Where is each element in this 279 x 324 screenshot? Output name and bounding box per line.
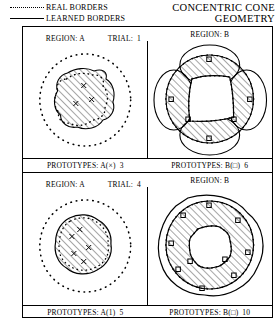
trial-4-header: REGION: A TRIAL:4 REGION: B <box>23 173 272 187</box>
trial-4-prototypes-b: PROTOTYPES: B(□)10 <box>148 308 273 317</box>
learned-border-blob-a4 <box>55 215 111 274</box>
figure-title: CONCENTRIC CONE GEOMETRY <box>145 2 275 24</box>
trial-4-panes <box>23 187 272 305</box>
legend-label-real-borders: REAL BORDERS <box>46 3 108 12</box>
trial-1-prototypes-b-label: PROTOTYPES: B(□) <box>171 161 240 170</box>
trial-1-prototypes-b: PROTOTYPES: B(□)6 <box>148 161 273 170</box>
plot-trial4-region-a <box>23 187 147 305</box>
trial-1-prototypes-a: PROTOTYPES: A(×)3 <box>23 161 148 170</box>
panel-trial4-region-a <box>23 187 148 305</box>
trial-1-prototypes-a-label: PROTOTYPES: A(×) <box>47 161 116 170</box>
plot-trial1-region-b <box>148 41 273 159</box>
legend-item-learned-borders: LEARNED BORDERS <box>8 13 158 24</box>
trial-1-prototypes-b-count: 6 <box>240 161 248 170</box>
concentric-cone-geometry-figure: REAL BORDERS LEARNED BORDERS CONCENTRIC … <box>0 0 279 324</box>
trial-4-prototypes-b-count: 10 <box>238 308 250 317</box>
plot-trial1-region-a <box>23 41 147 159</box>
trial-4-region-b-label: REGION: B <box>148 176 273 185</box>
panel-trial4-region-b <box>148 187 273 305</box>
panel-trial1-region-a <box>23 41 148 159</box>
trial-1-region-b-label: REGION: B <box>148 30 273 39</box>
legend-item-real-borders: REAL BORDERS <box>8 2 158 13</box>
learned-border-blob-a1 <box>54 69 114 129</box>
trial-4-prototypes-b-label: PROTOTYPES: B(□) <box>169 308 238 317</box>
figure-title-line2: GEOMETRY <box>145 13 275 24</box>
dotted-line-icon <box>8 2 46 13</box>
trial-4-prototypes-a-label: PROTOTYPES: A(1) <box>47 308 115 317</box>
figure-title-line1: CONCENTRIC CONE <box>145 2 275 13</box>
trial-1-prototypes-a-count: 3 <box>116 161 124 170</box>
solid-line-icon <box>8 13 46 24</box>
trial-1-footer: PROTOTYPES: A(×)3 PROTOTYPES: B(□)6 <box>23 158 272 172</box>
legend: REAL BORDERS LEARNED BORDERS <box>8 2 158 24</box>
trial-4-prototypes-a-count: 5 <box>115 308 123 317</box>
trial-4-prototypes-a: PROTOTYPES: A(1)5 <box>23 308 148 317</box>
legend-label-learned-borders: LEARNED BORDERS <box>46 14 125 23</box>
figure-frame: REGION: A TRIAL:1 REGION: B <box>22 26 273 318</box>
trial-4-footer: PROTOTYPES: A(1)5 PROTOTYPES: B(□)10 <box>23 305 272 319</box>
trial-1-panes <box>23 41 272 159</box>
trial-block-1: REGION: A TRIAL:1 REGION: B <box>23 27 272 173</box>
trial-1-header: REGION: A TRIAL:1 REGION: B <box>23 27 272 41</box>
panel-trial1-region-b <box>148 41 273 159</box>
trial-block-4: REGION: A TRIAL:4 REGION: B <box>23 173 272 319</box>
learned-border-inner-b1 <box>188 76 233 122</box>
plot-trial4-region-b <box>148 187 273 305</box>
